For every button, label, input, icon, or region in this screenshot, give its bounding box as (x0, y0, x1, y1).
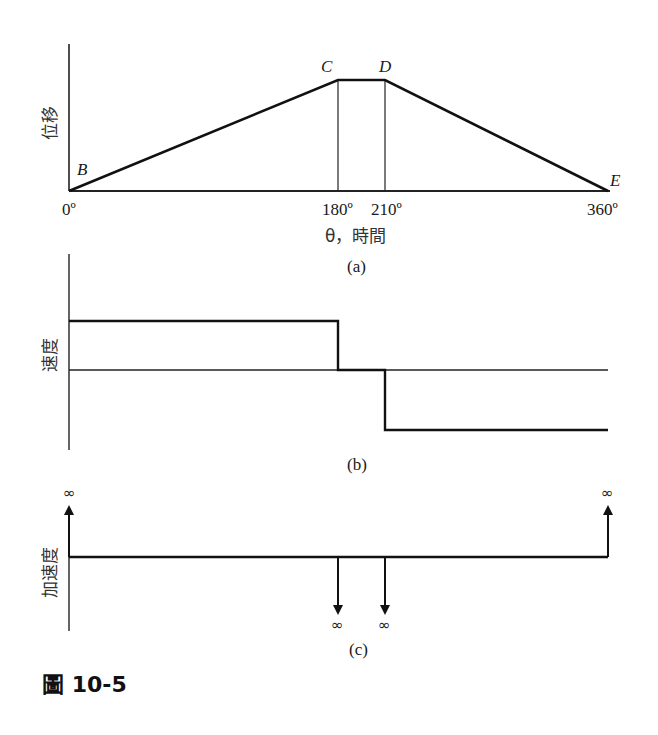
panel-b-velocity: 速度 (b) (40, 254, 608, 474)
panel-label: (c) (349, 640, 368, 659)
y-axis-label: 位移 (40, 106, 60, 140)
figure-caption: 圖 10-5 (42, 672, 127, 697)
panel-label: (b) (347, 455, 367, 474)
point-d-label: D (378, 57, 392, 76)
infinity-label: ∞ (378, 616, 391, 634)
point-e-label: E (609, 171, 621, 190)
point-b-label: B (77, 160, 88, 179)
x-axis-label: θ，時間 (325, 226, 386, 246)
figure-canvas: B C D E 0º 180º 210º 360º θ，時間 位移 (a) 速度… (0, 0, 658, 735)
tick-180: 180º (322, 200, 353, 219)
panel-label: (a) (347, 257, 366, 276)
infinity-label: ∞ (601, 484, 614, 502)
y-axis-label: 加速度 (40, 547, 60, 598)
y-axis-label: 速度 (40, 338, 60, 372)
tick-210: 210º (371, 200, 402, 219)
velocity-curve (69, 321, 608, 430)
point-c-label: C (321, 57, 333, 76)
tick-0: 0º (62, 200, 76, 219)
infinity-label: ∞ (63, 484, 76, 502)
panel-a-displacement: B C D E 0º 180º 210º 360º θ，時間 位移 (a) (40, 44, 621, 276)
infinity-label: ∞ (331, 616, 344, 634)
panel-c-acceleration: ∞ ∞ ∞ ∞ 加速度 (c) (40, 484, 614, 659)
tick-360: 360º (587, 200, 618, 219)
